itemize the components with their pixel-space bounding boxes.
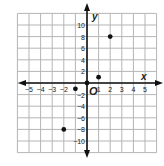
y-tick-label: −10 xyxy=(73,138,85,145)
x-tick-label: 5 xyxy=(143,86,147,93)
y-axis-label: y xyxy=(91,11,98,22)
data-point xyxy=(85,81,90,86)
y-tick-label: 4 xyxy=(81,57,85,64)
data-point xyxy=(73,86,78,91)
y-tick-label: 6 xyxy=(81,45,85,52)
data-point xyxy=(61,127,66,132)
x-tick-label: −4 xyxy=(37,86,45,93)
data-point xyxy=(96,75,101,80)
x-tick-label: 4 xyxy=(131,86,135,93)
y-tick-label: 2 xyxy=(81,68,85,75)
y-axis-arrow-down-icon xyxy=(84,150,90,158)
x-tick-label: 1 xyxy=(97,86,101,93)
y-tick-label: −6 xyxy=(77,115,85,122)
coordinate-plane: yxO−5−4−3−212345108642−2−4−6−8−10 xyxy=(0,0,164,166)
x-tick-label: 3 xyxy=(120,86,124,93)
y-tick-label: 8 xyxy=(81,34,85,41)
x-tick-label: −3 xyxy=(48,86,56,93)
scatter-plot: yxO−5−4−3−212345108642−2−4−6−8−10 xyxy=(0,0,164,166)
y-tick-label: −2 xyxy=(77,92,85,99)
x-tick-label: 2 xyxy=(108,86,112,93)
x-tick-label: −2 xyxy=(60,86,68,93)
data-point xyxy=(108,34,113,39)
x-tick-label: −5 xyxy=(25,86,33,93)
x-axis-label: x xyxy=(140,71,147,82)
y-axis-arrow-up-icon xyxy=(84,3,90,11)
y-tick-label: 10 xyxy=(77,22,85,29)
x-axis-arrow-right-icon xyxy=(155,80,163,86)
y-tick-label: −4 xyxy=(77,103,85,110)
y-tick-label: −8 xyxy=(77,126,85,133)
